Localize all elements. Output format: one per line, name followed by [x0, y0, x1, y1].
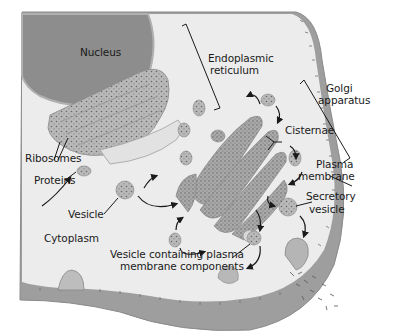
label-er-line1: Endoplasmic: [208, 52, 274, 64]
label-cisternae: Cisternae: [285, 124, 334, 136]
label-proteins: Proteins: [34, 174, 75, 186]
label-secretory-line1: Secretory: [306, 190, 356, 202]
label-plasma-line1: Plasma: [316, 158, 353, 170]
label-er-line2: reticulum: [210, 64, 259, 76]
label-golgi-line2: apparatus: [318, 94, 370, 106]
er-vesicle: [180, 151, 192, 165]
label-ribosomes: Ribosomes: [25, 152, 81, 164]
secretory-vesicle: [279, 198, 297, 216]
er-vesicle: [193, 100, 205, 116]
label-secretory-line2: vesicle: [309, 203, 345, 215]
label-vcpm-line2: membrane components: [120, 260, 244, 272]
label-vesicle: Vesicle: [68, 208, 104, 220]
label-vcpm-line1: Vesicle containing plasma: [110, 248, 244, 260]
protein-blob: [77, 166, 91, 176]
label-golgi-line1: Golgi: [326, 82, 353, 94]
vesicle: [116, 181, 134, 199]
er-vesicle: [178, 123, 190, 137]
label-cytoplasm: Cytoplasm: [44, 232, 99, 244]
cell-diagram: Nucleus Endoplasmic reticulum Golgi appa…: [0, 0, 394, 336]
membrane-vesicle: [247, 231, 261, 245]
label-plasma-line2: membrane: [298, 170, 355, 182]
label-nucleus: Nucleus: [80, 46, 121, 58]
